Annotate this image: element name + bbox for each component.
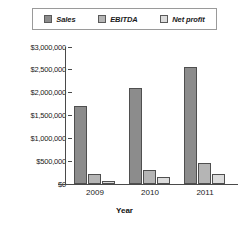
y-axis-tick-label: $1,500,000 xyxy=(30,111,66,120)
bar-net-profit-2010 xyxy=(157,177,170,184)
bar-group-2009 xyxy=(74,44,116,184)
bar-group-2011 xyxy=(184,44,226,184)
y-axis-tick-label: $500,000 xyxy=(36,157,66,166)
legend-swatch-sales xyxy=(44,15,52,23)
bar-net-profit-2011 xyxy=(212,174,225,185)
y-axis-tick: $1,500,000 xyxy=(0,111,72,121)
bar-groups xyxy=(66,38,238,185)
legend-item-net-profit: Net profit xyxy=(149,15,216,24)
bar-ebitda-2009 xyxy=(88,174,101,184)
legend-item-sales: Sales xyxy=(33,15,87,24)
y-axis-tick-label: $2,000,000 xyxy=(30,88,66,97)
y-axis-tick: $500,000 xyxy=(0,156,72,166)
legend-label-net-profit: Net profit xyxy=(172,15,204,24)
x-axis-label-2011: 2011 xyxy=(180,188,230,197)
chart-legend: Sales EBITDA Net profit xyxy=(32,8,217,30)
x-axis-label-2009: 2009 xyxy=(70,188,120,197)
bar-sales-2009 xyxy=(74,106,87,184)
y-axis-tick-label: $3,000,000 xyxy=(30,43,66,52)
bar-group-2010 xyxy=(129,44,171,184)
y-axis-tick-label: $2,500,000 xyxy=(30,65,66,74)
legend-item-ebitda: EBITDA xyxy=(87,15,149,24)
bar-sales-2011 xyxy=(184,67,197,184)
bar-ebitda-2010 xyxy=(143,170,156,184)
y-axis-tick: $1,000,000 xyxy=(0,133,72,143)
y-axis-tick: $2,500,000 xyxy=(0,65,72,75)
y-axis-tick: $2,000,000 xyxy=(0,88,72,98)
legend-label-sales: Sales xyxy=(56,15,75,24)
bar-ebitda-2011 xyxy=(198,163,211,184)
bar-sales-2010 xyxy=(129,88,142,184)
legend-swatch-net-profit xyxy=(160,15,168,23)
x-axis-title: Year xyxy=(0,206,249,215)
x-axis-label-2010: 2010 xyxy=(125,188,175,197)
y-axis-tick: $3,000,000 xyxy=(0,42,72,52)
legend-swatch-ebitda xyxy=(98,15,106,23)
plot-area: $3,000,000$2,500,000$2,000,000$1,500,000… xyxy=(0,38,249,229)
y-axis-tick-label: $1,000,000 xyxy=(30,134,66,143)
legend-label-ebitda: EBITDA xyxy=(110,15,137,24)
bar-chart-screenshot: Sales EBITDA Net profit $3,000,000$2,500… xyxy=(0,0,249,229)
bar-net-profit-2009 xyxy=(102,181,115,184)
